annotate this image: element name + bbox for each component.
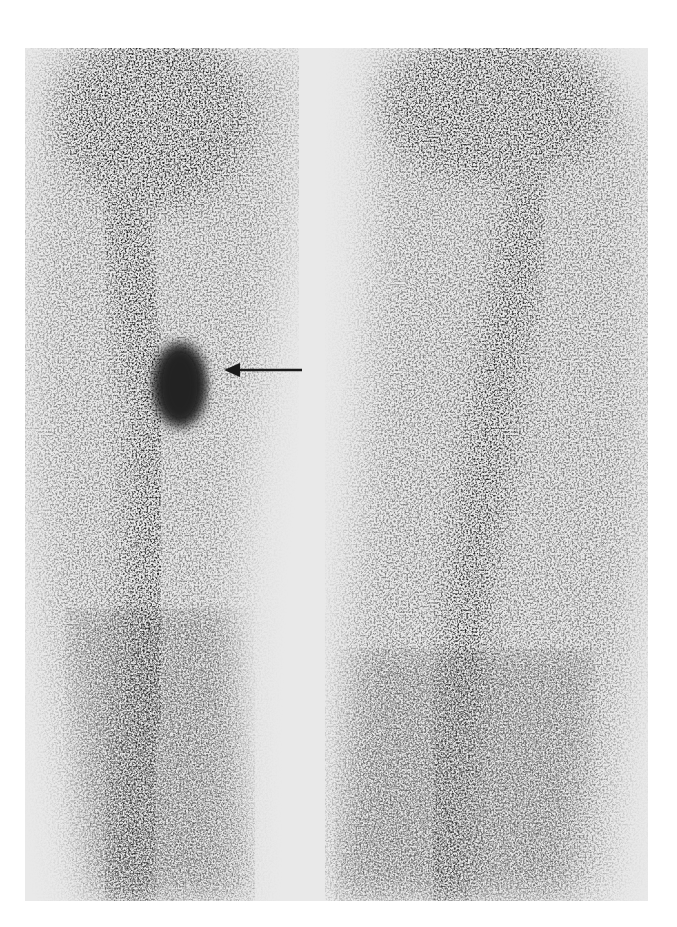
scan-image-panel xyxy=(25,48,648,901)
right-limb-lower xyxy=(335,648,595,901)
page: scintigraphy-scan xyxy=(0,0,677,927)
left-limb-lower xyxy=(65,608,255,901)
scan-image xyxy=(25,48,648,901)
